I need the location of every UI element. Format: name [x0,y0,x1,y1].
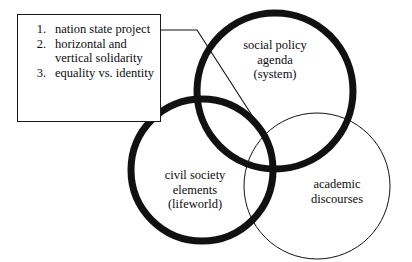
list-item-number: 1. [24,22,55,37]
list-item-label: nation state project [55,22,156,37]
circle-label-academic-discourses: academic discourses [287,177,387,206]
list-item-label: horizontal and vertical solidarity [55,37,156,66]
nation-state-project-callout: 1. nation state project 2. horizontal an… [17,14,161,122]
venn-diagram-canvas: 1. nation state project 2. horizontal an… [0,0,412,262]
callout-list: 1. nation state project 2. horizontal an… [18,15,160,80]
list-item-label: equality vs. identity [55,66,156,81]
circle-label-social-policy-agenda: social policy agenda (system) [210,38,340,82]
circle-label-civil-society-elements: civil society elements (lifeworld) [136,168,254,212]
list-item-number: 2. [24,37,55,52]
list-item-number: 3. [24,66,55,81]
list-item: 2. horizontal and vertical solidarity [18,37,156,66]
circle-social-policy-agenda [197,13,353,169]
list-item: 3. equality vs. identity [18,66,156,81]
list-item: 1. nation state project [18,22,156,37]
